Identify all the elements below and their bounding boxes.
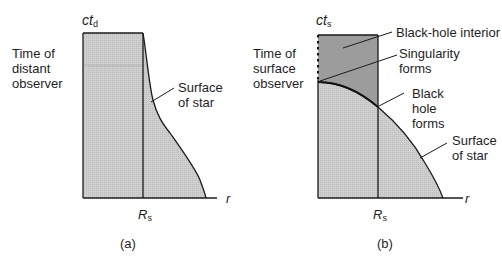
- panel-b-y-axis-label: cts: [316, 13, 331, 32]
- panel-b-radius-label: Rs: [373, 207, 387, 226]
- panel-a-caption: (a): [120, 236, 136, 251]
- panel-a-shaded-region: [83, 33, 206, 198]
- panel-b-singularity-annotation: Singularity forms: [399, 46, 460, 76]
- panel-a-y-axis-label: ctd: [82, 13, 98, 32]
- panel-b-x-axis-label: r: [465, 191, 469, 206]
- panel-a-diagram: [83, 33, 217, 198]
- panel-b-blackhole-annotation: Black hole forms: [412, 86, 445, 131]
- panel-a-radius-label: Rs: [138, 207, 152, 226]
- panel-a-surface-annotation: Surface of star: [178, 80, 223, 110]
- panel-b-side-label: Time of surface observer: [253, 46, 304, 91]
- panel-a-band: [84, 64, 143, 67]
- panel-a-surface-leader: [151, 88, 174, 102]
- panel-b-interior-annotation: Black-hole interior: [396, 25, 500, 40]
- panel-a-side-label: Time of distant observer: [12, 46, 63, 91]
- panel-b-surface-leader: [420, 143, 447, 158]
- panel-b-blackhole-leader: [379, 93, 404, 106]
- panel-b-caption: (b): [377, 236, 393, 251]
- panel-b-surface-annotation: Surface of star: [452, 133, 497, 163]
- panel-a-x-axis-label: r: [226, 191, 230, 206]
